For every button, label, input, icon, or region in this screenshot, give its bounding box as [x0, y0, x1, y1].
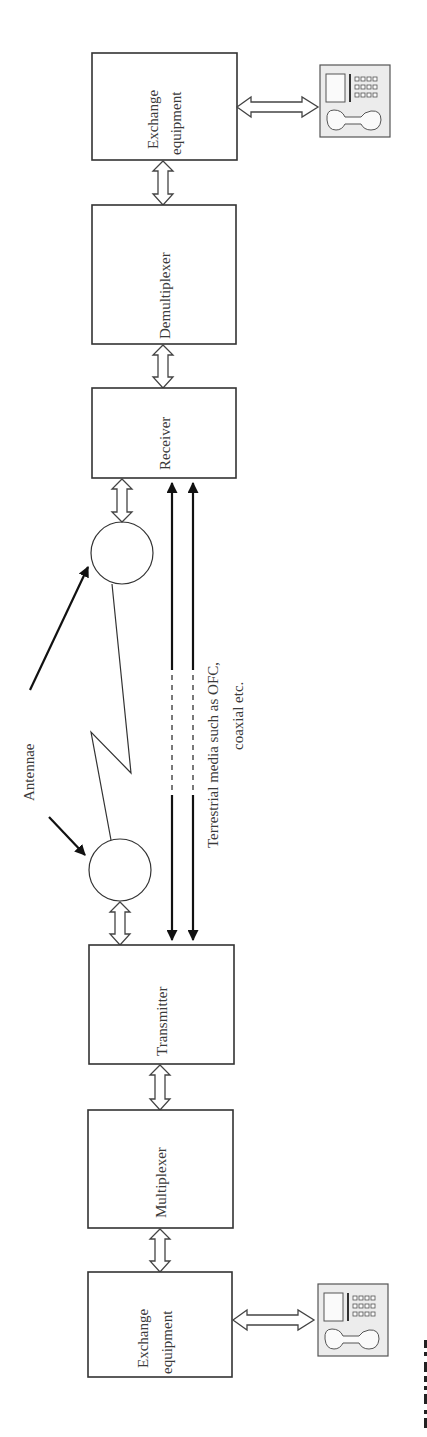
- terrestrial-label-2: coaxial etc.: [230, 682, 246, 750]
- antennae-label: Antennae: [21, 743, 37, 801]
- radio-link-zigzag: [91, 584, 131, 840]
- double-arrow-transmitter-multiplexer: [150, 1065, 170, 1110]
- antenna-tx-icon: [89, 839, 151, 901]
- multiplexer-block: Multiplexer: [88, 1110, 233, 1228]
- exchange-tx-label-1: Exchange: [135, 1309, 151, 1368]
- exchange-equipment-rx-block: Exchange equipment: [92, 53, 237, 160]
- double-arrow-multiplexer-exchange: [150, 1229, 170, 1272]
- antennae-pointer-arrow-rx: [30, 567, 88, 690]
- terrestrial-label-1: Terrestrial media such as OFC,: [205, 662, 221, 848]
- demultiplexer-block: Demultiplexer: [92, 205, 236, 344]
- transmitter-block: Transmitter: [89, 945, 234, 1064]
- double-arrow-antenna-transmitter: [110, 902, 130, 945]
- double-arrow-receiver-antenna: [112, 479, 132, 522]
- exchange-rx-label-2: equipment: [168, 91, 184, 155]
- exchange-tx-label-2: equipment: [159, 1310, 175, 1374]
- double-arrow-exchange-phone-bottom: [233, 1310, 314, 1330]
- receiver-label: Receiver: [157, 417, 173, 470]
- receiver-block: Receiver: [92, 388, 236, 478]
- antennae-pointer-arrow-tx: [49, 817, 85, 855]
- double-arrow-exchange-phone-top: [237, 97, 318, 117]
- telephone-icon: [320, 65, 390, 137]
- transmitter-label: Transmitter: [154, 987, 170, 1056]
- antenna-rx-icon: [91, 522, 153, 584]
- double-arrow-demux-receiver: [153, 345, 173, 388]
- communication-system-diagram: Exchange equipment Demultiplexer Receive…: [0, 0, 427, 1437]
- multiplexer-label: Multiplexer: [153, 1147, 169, 1218]
- terrestrial-media-links: [172, 483, 193, 940]
- exchange-rx-label-1: Exchange: [145, 90, 161, 149]
- double-arrow-exchange-demux: [153, 161, 173, 205]
- demultiplexer-label: Demultiplexer: [157, 252, 173, 339]
- exchange-equipment-tx-block: Exchange equipment: [88, 1272, 232, 1377]
- telephone-icon: [318, 1284, 388, 1356]
